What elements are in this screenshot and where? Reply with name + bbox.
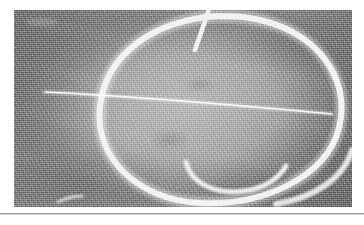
photo-film-grain-secondary [14, 10, 352, 207]
document-page [0, 0, 364, 225]
horizontal-rule-highlight [0, 214, 364, 215]
figure-photograph [14, 10, 352, 207]
figure-caption [14, 216, 352, 224]
